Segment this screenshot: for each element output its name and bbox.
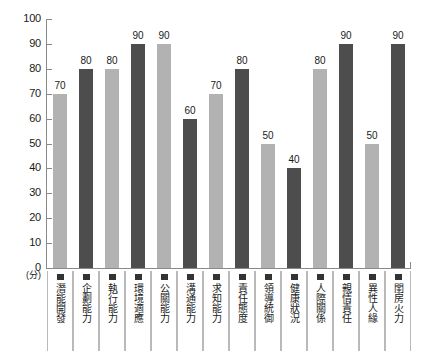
- category-label-text: 環境適應: [133, 283, 144, 323]
- y-axis-tick-mark: [46, 193, 52, 194]
- category-label-strip: 潛能開發企劃能力執行能力環境適應公關能力溝通能力求知能力責任態度領導統御健康狀況…: [47, 271, 411, 351]
- y-axis-tick-mark: [46, 94, 52, 95]
- y-axis-tick-label: 10: [29, 237, 41, 248]
- series-marker-icon: [395, 274, 402, 280]
- bar-group: 60: [183, 19, 197, 268]
- category-label-cell: 責任態度: [229, 271, 255, 351]
- bar-value-label: 80: [314, 56, 325, 66]
- y-axis-tick-mark: [46, 69, 52, 70]
- bar-value-label: 70: [210, 81, 221, 91]
- bar: [209, 94, 223, 268]
- bar-chart: 1009080706050403020100 (分) 7080809090607…: [0, 0, 431, 351]
- category-label-cell: 人際關係: [307, 271, 333, 351]
- category-label-text: 企劃能力: [81, 283, 92, 323]
- category-label-text: 親情責任: [341, 283, 352, 323]
- bar: [313, 69, 327, 268]
- bar-value-label: 60: [184, 106, 195, 116]
- category-label-text: 異性人緣: [367, 283, 378, 323]
- bar-group: 40: [287, 19, 301, 268]
- y-axis-tick-mark: [46, 44, 52, 45]
- category-label-cell: 溝通能力: [177, 271, 203, 351]
- bar: [235, 69, 249, 268]
- category-label-cell: 公關能力: [151, 271, 177, 351]
- category-label-text: 公關能力: [159, 283, 170, 323]
- y-axis-tick-mark: [46, 19, 52, 20]
- bar-value-label: 70: [54, 81, 65, 91]
- y-axis-tick-mark: [46, 168, 52, 169]
- bar-group: 90: [339, 19, 353, 268]
- y-axis-unit-label: (分): [26, 270, 41, 280]
- category-label-cell: 企劃能力: [73, 271, 99, 351]
- series-marker-icon: [239, 274, 246, 280]
- bar: [105, 69, 119, 268]
- category-label-cell: 求知能力: [203, 271, 229, 351]
- bar: [157, 44, 171, 268]
- bar: [79, 69, 93, 268]
- y-axis-tick-label: 20: [29, 212, 41, 223]
- bar-value-label: 50: [366, 131, 377, 141]
- x-axis-line: [46, 268, 411, 269]
- series-marker-icon: [109, 274, 116, 280]
- y-axis-tick-mark: [46, 218, 52, 219]
- series-marker-icon: [291, 274, 298, 280]
- category-label-cell: 環境適應: [125, 271, 151, 351]
- category-label-text: 求知能力: [211, 283, 222, 323]
- bar-value-label: 80: [80, 56, 91, 66]
- bar-group: 90: [157, 19, 171, 268]
- bar-value-label: 50: [262, 131, 273, 141]
- bar-group: 80: [313, 19, 327, 268]
- category-label-cell: 潛能開發: [47, 271, 73, 351]
- y-axis: 1009080706050403020100: [0, 0, 44, 275]
- bar-group: 80: [105, 19, 119, 268]
- category-label-text: 執行能力: [107, 283, 118, 323]
- series-marker-icon: [213, 274, 220, 280]
- plot-area: 7080809090607080504080905090: [47, 19, 411, 268]
- category-label-text: 閨房火力: [393, 283, 404, 323]
- series-marker-icon: [317, 274, 324, 280]
- category-label-text: 溝通能力: [185, 283, 196, 323]
- bar-value-label: 90: [132, 31, 143, 41]
- bar-group: 50: [365, 19, 379, 268]
- series-marker-icon: [265, 274, 272, 280]
- bar-group: 90: [391, 19, 405, 268]
- bar-value-label: 90: [340, 31, 351, 41]
- category-label-text: 人際關係: [315, 283, 326, 323]
- series-marker-icon: [135, 274, 142, 280]
- bar: [53, 94, 67, 268]
- y-axis-tick-mark: [46, 144, 52, 145]
- y-axis-tick-label: 100: [23, 13, 41, 24]
- series-marker-icon: [369, 274, 376, 280]
- y-axis-tick-label: 80: [29, 63, 41, 74]
- category-label-text: 健康狀況: [289, 283, 300, 323]
- bar-value-label: 90: [158, 31, 169, 41]
- bar: [391, 44, 405, 268]
- category-label-cell: 執行能力: [99, 271, 125, 351]
- y-axis-tick-label: 50: [29, 138, 41, 149]
- y-axis-tick-label: 90: [29, 38, 41, 49]
- category-label-cell: 閨房火力: [385, 271, 411, 351]
- bar-group: 70: [53, 19, 67, 268]
- bar: [261, 144, 275, 269]
- category-label-cell: 異性人緣: [359, 271, 385, 351]
- bar: [287, 168, 301, 268]
- series-marker-icon: [161, 274, 168, 280]
- bar-value-label: 80: [236, 56, 247, 66]
- y-axis-tick-label: 60: [29, 113, 41, 124]
- category-label-text: 領導統御: [263, 283, 274, 323]
- series-marker-icon: [83, 274, 90, 280]
- category-label-cell: 親情責任: [333, 271, 359, 351]
- y-axis-tick-label: 70: [29, 88, 41, 99]
- bar-value-label: 40: [288, 155, 299, 165]
- y-axis-tick-mark: [46, 119, 52, 120]
- bar-group: 50: [261, 19, 275, 268]
- category-label-text: 潛能開發: [55, 283, 66, 323]
- y-axis-tick-mark: [46, 243, 52, 244]
- category-label-text: 責任態度: [237, 283, 248, 323]
- bar: [131, 44, 145, 268]
- bar-value-label: 80: [106, 56, 117, 66]
- bar: [183, 119, 197, 268]
- bar-group: 90: [131, 19, 145, 268]
- bar-group: 80: [235, 19, 249, 268]
- bar-group: 70: [209, 19, 223, 268]
- series-marker-icon: [57, 274, 64, 280]
